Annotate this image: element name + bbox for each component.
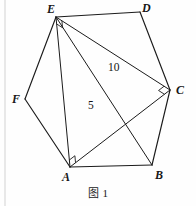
diagonal-EC [56, 17, 170, 90]
hexagon-side-AB [70, 165, 152, 167]
diagonal-EB [56, 17, 152, 165]
vertex-label-D: D [142, 2, 151, 14]
vertex-label-A: A [62, 171, 70, 183]
right-angle-marker-C [159, 86, 165, 94]
figure-canvas [0, 0, 196, 206]
diagonal-AC [70, 90, 170, 167]
hexagon-side-EF [25, 17, 56, 99]
diagonal-lines [56, 17, 170, 167]
diagonal-EA [56, 17, 70, 167]
vertex-label-F: F [12, 93, 20, 105]
vertex-label-B: B [155, 169, 163, 181]
vertex-label-E: E [47, 3, 55, 15]
hexagon-side-DE [56, 12, 140, 17]
measure-label-5: 5 [88, 100, 94, 112]
figure-caption: 图 1 [0, 184, 196, 200]
geometry-figure: A B C D E F 10 5 图 1 [0, 0, 196, 206]
right-angle-marker-A [69, 156, 75, 163]
vertex-label-C: C [176, 84, 184, 96]
measure-label-10: 10 [108, 62, 120, 74]
hexagon-side-FA [25, 99, 70, 167]
hexagon-outline [25, 12, 170, 167]
hexagon-side-CD [140, 12, 170, 90]
